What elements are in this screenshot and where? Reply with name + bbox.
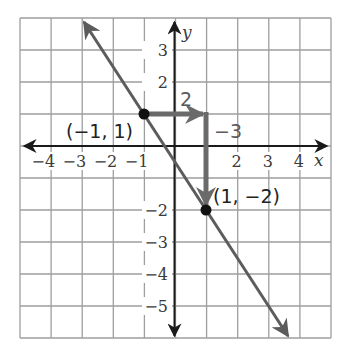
x-tick-label: −2 bbox=[94, 152, 118, 171]
x-tick-label: 3 bbox=[263, 152, 273, 171]
y-tick-label: 3 bbox=[158, 41, 168, 60]
x-tick-label: −1 bbox=[125, 152, 149, 171]
point-label-neg1-1: (−1, 1) bbox=[66, 120, 133, 142]
point-1-neg2 bbox=[201, 205, 212, 216]
x-tick-label: −3 bbox=[63, 152, 87, 171]
run-label: 2 bbox=[180, 88, 192, 110]
x-tick-label: 2 bbox=[232, 152, 242, 171]
y-axis-label: y bbox=[181, 22, 192, 42]
y-tick-label: −3 bbox=[144, 233, 168, 252]
point-label-1-neg2: (1, −2) bbox=[213, 185, 280, 207]
y-tick-label: −4 bbox=[144, 265, 168, 284]
y-tick-label: 2 bbox=[158, 73, 168, 92]
coordinate-plane: −4−3−2−123432−2−3−4−5 x y 2 −3 (−1, 1) (… bbox=[0, 0, 338, 351]
y-tick-label: −5 bbox=[144, 297, 168, 316]
x-tick-label: 4 bbox=[294, 152, 304, 171]
x-axis-label: x bbox=[314, 150, 324, 170]
rise-label: −3 bbox=[214, 120, 242, 142]
y-tick-label: −2 bbox=[144, 201, 168, 220]
x-tick-label: −4 bbox=[32, 152, 56, 171]
graphed-line bbox=[84, 22, 288, 336]
point-neg1-1 bbox=[139, 109, 150, 120]
